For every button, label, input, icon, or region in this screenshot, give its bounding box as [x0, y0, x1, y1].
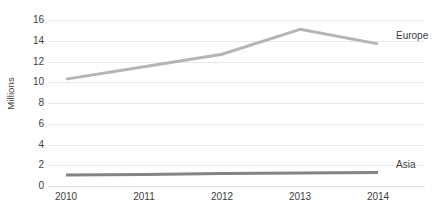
series-lines [48, 20, 425, 186]
line-chart: Millions 0246810121416 20102011201220132… [0, 0, 432, 218]
plot-area [48, 20, 425, 186]
y-tick-label-2: 2 [18, 160, 44, 170]
y-axis-tick-labels: 0246810121416 [14, 0, 44, 218]
y-tick-label-12: 12 [18, 57, 44, 67]
series-label-asia: Asia [396, 160, 415, 170]
y-tick-label-10: 10 [18, 77, 44, 87]
gridline-0 [48, 186, 425, 187]
x-tick-label-2012: 2012 [192, 192, 252, 202]
x-tick-label-2014: 2014 [348, 192, 408, 202]
x-tick-label-2011: 2011 [114, 192, 174, 202]
y-tick-label-6: 6 [18, 119, 44, 129]
x-axis-tick-labels: 20102011201220132014 [48, 192, 425, 212]
series-line-asia [66, 173, 378, 176]
series-line-europe [66, 29, 378, 79]
y-tick-label-14: 14 [18, 36, 44, 46]
y-tick-label-16: 16 [18, 15, 44, 25]
y-tick-label-0: 0 [18, 181, 44, 191]
series-label-europe: Europe [396, 31, 428, 41]
y-tick-label-4: 4 [18, 140, 44, 150]
x-tick-label-2013: 2013 [270, 192, 330, 202]
y-tick-label-8: 8 [18, 98, 44, 108]
x-tick-label-2010: 2010 [36, 192, 96, 202]
